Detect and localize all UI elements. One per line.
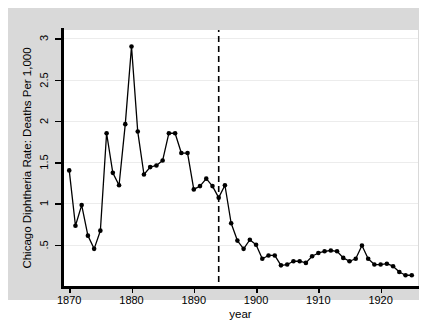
data-point [360,243,365,248]
data-point [92,247,97,252]
x-tick-label: 1900 [244,294,268,306]
x-tick-mark [132,288,134,293]
data-point [322,249,327,254]
x-tick-mark [381,288,383,293]
data-point [347,259,352,264]
data-point [98,228,103,233]
data-point [142,172,147,177]
y-tick-mark [55,162,61,164]
data-point [316,251,321,256]
data-point [335,249,340,254]
data-point [378,262,383,267]
data-point [111,171,116,176]
x-tick-mark [194,288,196,293]
y-tick-label: 2 [38,118,50,124]
x-tick-label: 1870 [57,294,81,306]
data-point [148,165,153,170]
data-point [366,256,371,261]
x-axis-line [61,286,419,289]
data-point [254,242,259,247]
y-tick-label: 2.5 [38,72,50,87]
data-point [341,256,346,261]
y-tick-mark [55,121,61,123]
data-point [272,253,277,258]
data-point [391,264,396,269]
data-point [266,253,271,258]
y-tick-mark [55,203,61,205]
data-point [167,131,172,136]
data-point [191,187,196,192]
y-tick-mark [55,80,61,82]
data-point [285,262,290,267]
data-point [129,44,134,49]
data-point [291,259,296,264]
data-point [403,273,408,278]
data-point [198,184,203,189]
y-axis-title-wrapper: Chicago Diphtheria Rate: Deaths Per 1,00… [18,30,36,286]
x-tick-label: 1890 [182,294,206,306]
data-point [229,221,234,226]
data-point [223,183,228,188]
data-point [329,248,334,253]
x-tick-label: 1920 [368,294,392,306]
data-point [104,131,109,136]
x-tick-mark [69,288,71,293]
data-point [79,203,84,208]
chart-screenshot: .511.522.53 187018801890190019101920 Chi… [0,0,427,324]
plot-area [63,30,418,286]
y-tick-label: 3 [38,35,50,41]
data-point [304,261,309,266]
x-tick-mark [318,288,320,293]
x-tick-mark [256,288,258,293]
y-tick-label: .5 [38,240,50,249]
diphtheria-rate-series [63,30,418,286]
data-point [409,273,414,278]
y-axis-line [61,28,64,288]
data-point [185,151,190,156]
data-point [210,184,215,189]
data-point [235,238,240,243]
x-tick-label: 1880 [119,294,143,306]
y-tick-label: 1 [38,200,50,206]
y-axis-title: Chicago Diphtheria Rate: Deaths Per 1,00… [21,47,33,268]
series-line [69,47,412,276]
x-tick-label: 1910 [306,294,330,306]
data-point [117,183,122,188]
graph-region: .511.522.53 187018801890190019101920 Chi… [8,8,419,300]
data-point [310,254,315,259]
y-tick-mark [55,245,61,247]
data-point [216,195,221,200]
data-point [297,259,302,264]
data-point [204,176,209,181]
data-point [279,263,284,268]
data-point [67,168,72,173]
data-point [86,233,91,238]
data-point [385,261,390,266]
x-axis-title: year [63,308,418,320]
data-point [173,131,178,136]
data-point [73,223,78,228]
y-tick-label: 1.5 [38,154,50,169]
data-point [154,163,159,168]
data-point [123,122,128,127]
y-tick-mark [55,38,61,40]
data-point [397,270,402,275]
data-point [160,158,165,163]
data-point [241,247,246,252]
data-point [179,151,184,156]
data-point [260,256,265,261]
data-point [135,129,140,134]
data-point [372,262,377,267]
data-point [248,237,253,242]
data-point [353,256,358,261]
